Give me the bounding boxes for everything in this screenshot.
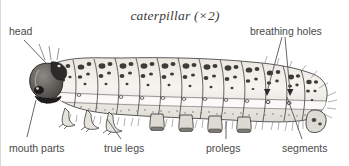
head-setae bbox=[39, 44, 59, 60]
leader-head bbox=[24, 40, 47, 64]
label-segments: segments bbox=[282, 142, 328, 154]
caterpillar-body bbox=[30, 44, 341, 135]
proleg-crochets bbox=[151, 127, 250, 132]
label-prolegs: prolegs bbox=[206, 142, 240, 154]
caterpillar-diagram: caterpillar (×2) bbox=[0, 0, 349, 166]
label-mouth-parts: mouth parts bbox=[9, 142, 64, 154]
label-breathing-holes: breathing holes bbox=[250, 25, 322, 37]
label-true-legs: true legs bbox=[104, 142, 144, 154]
anal-proleg bbox=[306, 110, 326, 133]
label-head: head bbox=[9, 25, 32, 37]
leader-mouth-parts bbox=[27, 100, 36, 137]
